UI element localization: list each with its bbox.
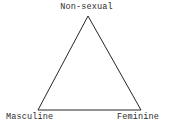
vertex-label-bottom-left: Masculine	[6, 113, 53, 122]
triangle-diagram: Non-sexual Masculine Feminine	[0, 0, 173, 131]
vertex-label-bottom-right: Feminine	[117, 113, 159, 122]
triangle-outline	[38, 16, 141, 110]
vertex-label-apex: Non-sexual	[0, 3, 173, 12]
